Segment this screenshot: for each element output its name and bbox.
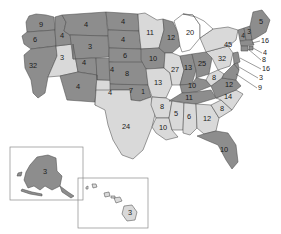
label-tn: 11 bbox=[185, 93, 193, 102]
label-ut: 4 bbox=[82, 58, 86, 67]
label-sd: 4 bbox=[121, 35, 125, 44]
leader-line-ct bbox=[248, 49, 261, 60]
label-mt: 4 bbox=[84, 20, 88, 29]
label-pa: 32 bbox=[218, 54, 226, 63]
label-mo: 13 bbox=[154, 78, 162, 87]
label-nd: 4 bbox=[121, 17, 125, 26]
label-ca: 32 bbox=[29, 61, 37, 70]
label-marker-1: 1 bbox=[141, 88, 145, 95]
label-co: 4 bbox=[110, 65, 114, 74]
label-nv: 3 bbox=[60, 53, 64, 62]
label-nm: 4 bbox=[108, 88, 112, 97]
label-tx: 24 bbox=[122, 122, 130, 131]
label-ms: 5 bbox=[174, 109, 178, 118]
leader-line-ma bbox=[252, 41, 260, 43]
label-wv: 8 bbox=[212, 73, 216, 82]
hawaii-niihau bbox=[86, 186, 88, 189]
state-nj[interactable] bbox=[233, 52, 240, 64]
label-ct: 8 bbox=[262, 55, 266, 64]
label-or: 6 bbox=[33, 35, 37, 44]
map-svg: 9 6 32 3 4 4 3 4 4 4 4 4 4 6 8 7 24 11 1… bbox=[0, 0, 281, 234]
leader-line-ri bbox=[253, 48, 262, 53]
label-de: 3 bbox=[259, 73, 263, 82]
label-nh: 3 bbox=[247, 28, 251, 35]
hawaii-oahu bbox=[104, 192, 110, 197]
state-ri[interactable] bbox=[249, 46, 253, 50]
label-la: 10 bbox=[159, 123, 167, 132]
label-az: 4 bbox=[76, 82, 80, 91]
label-oh: 25 bbox=[198, 59, 206, 68]
leader-line-de bbox=[239, 67, 258, 78]
label-wa: 9 bbox=[39, 20, 43, 29]
alaska-chain bbox=[21, 189, 42, 196]
label-nj: 16 bbox=[262, 64, 270, 73]
label-ma: 16 bbox=[261, 36, 269, 45]
label-in: 13 bbox=[184, 63, 192, 72]
label-il: 27 bbox=[171, 65, 179, 74]
state-fl[interactable] bbox=[197, 131, 238, 169]
us-electoral-map: 9 6 32 3 4 4 3 4 4 4 4 4 4 6 8 7 24 11 1… bbox=[0, 0, 281, 234]
hawaii-inset-frame bbox=[78, 178, 148, 228]
label-fl: 10 bbox=[220, 145, 228, 154]
label-ak: 3 bbox=[43, 167, 47, 176]
label-hi: 3 bbox=[128, 208, 132, 217]
label-sc: 8 bbox=[220, 104, 224, 113]
label-id: 4 bbox=[60, 31, 64, 40]
label-ar: 8 bbox=[160, 102, 164, 111]
leader-line-nj bbox=[240, 58, 261, 69]
label-wy: 3 bbox=[88, 42, 92, 51]
label-mn: 11 bbox=[146, 28, 154, 37]
state-or[interactable] bbox=[22, 30, 56, 49]
state-ma[interactable] bbox=[240, 40, 254, 46]
label-mi: 20 bbox=[186, 28, 194, 37]
label-ok: 7 bbox=[129, 86, 133, 95]
label-ga: 12 bbox=[203, 114, 211, 123]
label-nc: 14 bbox=[224, 92, 232, 101]
label-ks: 8 bbox=[125, 69, 129, 78]
label-ky: 10 bbox=[188, 81, 196, 90]
state-ct[interactable] bbox=[241, 46, 248, 51]
hawaii-molokai bbox=[111, 196, 115, 198]
label-ny: 45 bbox=[224, 40, 232, 49]
state-ne[interactable] bbox=[109, 48, 146, 64]
label-ia: 10 bbox=[149, 54, 157, 63]
alaska-aleutians bbox=[17, 172, 22, 176]
alaska-panhandle bbox=[60, 186, 74, 198]
label-va: 12 bbox=[225, 80, 233, 89]
label-vt: 4 bbox=[241, 32, 245, 39]
label-md: 9 bbox=[258, 83, 262, 92]
label-me: 5 bbox=[259, 17, 263, 26]
label-ne: 6 bbox=[123, 51, 127, 60]
label-wi: 12 bbox=[167, 33, 175, 42]
hawaii-kauai bbox=[92, 184, 97, 188]
label-al: 6 bbox=[187, 112, 191, 121]
